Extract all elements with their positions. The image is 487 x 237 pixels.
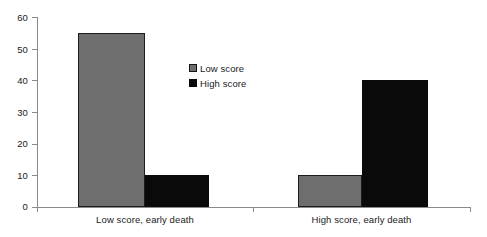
- y-axis-label-10: 10: [4, 170, 28, 181]
- bar-chart: 60 50 40 30 20 10 0 Low score High score: [0, 0, 487, 237]
- bar-group2-high-score: [362, 80, 428, 207]
- bar-group1-high-score: [145, 175, 209, 207]
- y-axis-label-30: 30: [4, 107, 28, 118]
- x-axis-category-label-1: Low score, early death: [37, 214, 253, 225]
- x-axis-category-label-2: High score, early death: [253, 214, 470, 225]
- legend-swatch-low-score-icon: [189, 64, 197, 72]
- legend-label-low-score: Low score: [200, 63, 244, 74]
- y-axis-label-0: 0: [4, 201, 28, 212]
- y-axis-label-40: 40: [4, 75, 28, 86]
- bar-group1-low-score: [78, 33, 145, 207]
- x-axis-tick-middle: [253, 208, 254, 212]
- legend-item-low-score: Low score: [189, 61, 246, 75]
- x-axis-line: [37, 207, 471, 208]
- chart-legend: Low score High score: [189, 61, 246, 91]
- legend-label-high-score: High score: [200, 78, 246, 89]
- legend-swatch-high-score-icon: [189, 79, 197, 87]
- x-axis-tick-end: [470, 208, 471, 212]
- y-axis-label-50: 50: [4, 44, 28, 55]
- legend-item-high-score: High score: [189, 76, 246, 90]
- plot-area: [37, 17, 470, 207]
- x-axis-tick-start: [37, 208, 38, 212]
- y-axis-label-60: 60: [4, 12, 28, 23]
- y-axis-label-20: 20: [4, 138, 28, 149]
- bar-group2-low-score: [298, 175, 362, 207]
